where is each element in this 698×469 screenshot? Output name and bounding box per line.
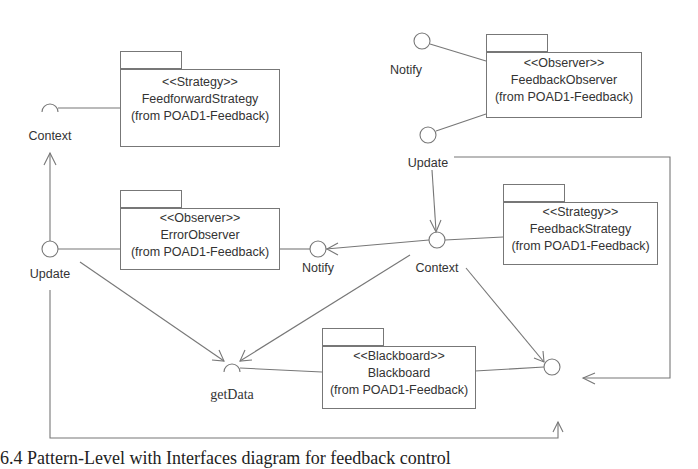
package-body: <<Observer>> ErrorObserver (from POAD1-F…: [120, 208, 280, 270]
getdata-interface-icon: [224, 364, 240, 372]
package-tab: [503, 184, 565, 202]
package-name: ErrorObserver: [121, 227, 279, 244]
package-stereotype: <<Strategy>>: [121, 74, 279, 91]
notify-label: Notify: [302, 261, 334, 275]
figure-caption: 6.4 Pattern-Level with Interfaces diagra…: [0, 448, 451, 469]
package-tab: [486, 34, 548, 52]
package-name: FeedbackStrategy: [504, 221, 657, 238]
package-tab: [322, 328, 384, 346]
package-origin: (from POAD1-Feedback): [121, 244, 279, 261]
package-origin: (from POAD1-Feedback): [487, 89, 641, 106]
blackboard-interface-icon: [544, 359, 560, 375]
package-stereotype: <<Observer>>: [121, 210, 279, 227]
package-body: <<Observer>> FeedbackObserver (from POAD…: [486, 52, 642, 118]
package-origin: (from POAD1-Feedback): [121, 108, 279, 125]
package-name: FeedbackObserver: [487, 72, 641, 89]
update-interface-icon: [42, 241, 58, 257]
context-interface-icon: [42, 104, 58, 112]
package-origin: (from POAD1-Feedback): [504, 238, 657, 255]
package-name: Blackboard: [323, 365, 475, 382]
getdata-label: getData: [210, 387, 254, 403]
context-interface-icon: [429, 232, 445, 248]
package-stereotype: <<Blackboard>>: [323, 348, 475, 365]
package-name: FeedforwardStrategy: [121, 91, 279, 108]
package-stereotype: <<Observer>>: [487, 55, 641, 72]
context-label: Context: [415, 261, 458, 275]
package-body: <<Strategy>> FeedbackStrategy (from POAD…: [503, 202, 658, 265]
package-tab: [120, 51, 182, 69]
update-label: Update: [408, 156, 448, 170]
package-origin: (from POAD1-Feedback): [323, 382, 475, 399]
package-stereotype: <<Strategy>>: [504, 204, 657, 221]
notify-interface-icon: [414, 33, 430, 49]
context-label: Context: [28, 129, 71, 143]
package-tab: [120, 190, 182, 208]
package-body: <<Blackboard>> Blackboard (from POAD1-Fe…: [322, 346, 476, 409]
notify-interface-icon: [310, 241, 326, 257]
update-interface-icon: [420, 127, 436, 143]
package-body: <<Strategy>> FeedforwardStrategy (from P…: [120, 69, 280, 147]
update-label: Update: [30, 267, 70, 281]
notify-label: Notify: [390, 63, 422, 77]
